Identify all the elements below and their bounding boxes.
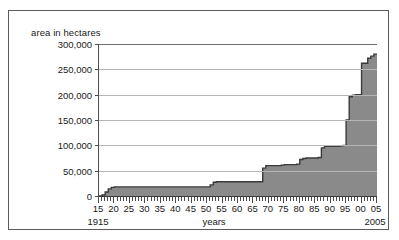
x-axis-label: years <box>202 216 225 227</box>
x-axis-minor-tickmark <box>296 197 297 201</box>
y-axis-tick-label: 200,000 <box>26 89 92 100</box>
x-axis-tick-label: 85 <box>309 203 320 214</box>
plot-area <box>98 44 377 197</box>
x-axis-minor-tickmark <box>339 197 340 201</box>
x-axis-minor-tickmark <box>308 197 309 201</box>
x-axis-minor-tickmark <box>107 197 108 201</box>
x-axis-minor-tickmark <box>181 197 182 201</box>
x-axis-minor-tickmark <box>172 197 173 201</box>
chart-frame: area in hectares 050,000100,000150,00020… <box>8 10 389 230</box>
x-axis-minor-tickmark <box>101 197 102 201</box>
gridline <box>99 120 377 121</box>
x-axis-minor-tickmark <box>240 197 241 201</box>
y-axis-tickmark <box>95 120 99 121</box>
x-axis-start-year: 1915 <box>87 216 108 227</box>
chart-figure: area in hectares 050,000100,000150,00020… <box>0 0 399 240</box>
x-axis-minor-tickmark <box>132 197 133 201</box>
x-axis-end-year: 2005 <box>364 216 385 227</box>
y-axis-tickmark <box>95 44 99 45</box>
x-axis-minor-tickmark <box>342 197 343 201</box>
x-axis-tick-label: 35 <box>154 203 165 214</box>
x-axis-minor-tickmark <box>200 197 201 201</box>
x-axis-minor-tickmark <box>256 197 257 201</box>
gridline <box>99 69 377 70</box>
x-axis-minor-tickmark <box>163 197 164 201</box>
y-axis-tickmark <box>95 69 99 70</box>
gridline <box>99 145 377 146</box>
x-axis-minor-tickmark <box>225 197 226 201</box>
x-axis-minor-tickmark <box>151 197 152 201</box>
x-axis-minor-tickmark <box>166 197 167 201</box>
x-axis-minor-tickmark <box>317 197 318 201</box>
x-axis-minor-tickmark <box>197 197 198 201</box>
x-axis-minor-tickmark <box>126 197 127 201</box>
x-axis-minor-tickmark <box>274 197 275 201</box>
y-axis-tick-label: 100,000 <box>26 140 92 151</box>
x-axis-minor-tickmark <box>311 197 312 201</box>
x-axis-tick-label: 05 <box>371 203 382 214</box>
x-axis-minor-tickmark <box>293 197 294 201</box>
y-axis-tick-label: 50,000 <box>26 165 92 176</box>
x-axis-minor-tickmark <box>265 197 266 201</box>
x-axis-minor-tickmark <box>123 197 124 201</box>
x-axis-tick-label: 40 <box>170 203 181 214</box>
x-axis-minor-tickmark <box>141 197 142 201</box>
x-axis-minor-tickmark <box>117 197 118 201</box>
x-axis-minor-tickmark <box>231 197 232 201</box>
x-axis-tick-label: 25 <box>124 203 135 214</box>
gridline <box>99 44 377 45</box>
x-axis-tick-label: 95 <box>340 203 351 214</box>
y-axis-tickmark <box>95 95 99 96</box>
x-axis-minor-tickmark <box>157 197 158 201</box>
x-axis-minor-tickmark <box>357 197 358 201</box>
y-axis-tick-label: 150,000 <box>26 115 92 126</box>
y-axis-tickmark <box>95 145 99 146</box>
x-axis-minor-tickmark <box>367 197 368 201</box>
x-axis-minor-tickmark <box>243 197 244 201</box>
x-axis-minor-tickmark <box>336 197 337 201</box>
x-axis-minor-tickmark <box>209 197 210 201</box>
x-axis-minor-tickmark <box>323 197 324 201</box>
x-axis-minor-tickmark <box>104 197 105 201</box>
x-axis-minor-tickmark <box>147 197 148 201</box>
x-axis-tick-label: 75 <box>278 203 289 214</box>
x-axis-minor-tickmark <box>370 197 371 201</box>
x-axis-minor-tickmark <box>277 197 278 201</box>
x-axis-minor-tickmark <box>135 197 136 201</box>
x-axis-minor-tickmark <box>178 197 179 201</box>
x-axis-minor-tickmark <box>333 197 334 201</box>
x-axis-minor-tickmark <box>212 197 213 201</box>
x-axis-minor-tickmark <box>120 197 121 201</box>
x-axis-minor-tickmark <box>290 197 291 201</box>
x-axis-minor-tickmark <box>327 197 328 201</box>
x-axis-minor-tickmark <box>373 197 374 201</box>
x-axis-tick-label: 55 <box>216 203 227 214</box>
x-axis-tick-label: 30 <box>139 203 150 214</box>
x-axis-minor-tickmark <box>351 197 352 201</box>
x-axis-minor-tickmark <box>194 197 195 201</box>
x-axis-minor-tickmark <box>184 197 185 201</box>
gridline <box>99 95 377 96</box>
x-axis-minor-tickmark <box>228 197 229 201</box>
x-axis-minor-tickmark <box>234 197 235 201</box>
gridline <box>99 171 377 172</box>
y-axis-tick-label: 250,000 <box>26 64 92 75</box>
x-axis-minor-tickmark <box>188 197 189 201</box>
x-axis-minor-tickmark <box>138 197 139 201</box>
x-axis-tick-label: 15 <box>93 203 104 214</box>
y-axis-tick-label: 300,000 <box>26 39 92 50</box>
x-axis-minor-tickmark <box>169 197 170 201</box>
x-axis-minor-tickmark <box>262 197 263 201</box>
x-axis-minor-tickmark <box>271 197 272 201</box>
y-axis-tickmark <box>95 171 99 172</box>
x-axis-minor-tickmark <box>280 197 281 201</box>
x-axis-minor-tickmark <box>249 197 250 201</box>
x-axis-minor-tickmark <box>215 197 216 201</box>
x-axis-minor-tickmark <box>154 197 155 201</box>
x-axis-minor-tickmark <box>203 197 204 201</box>
x-axis-tick-label: 00 <box>355 203 366 214</box>
x-axis-tick-label: 70 <box>263 203 274 214</box>
x-axis-minor-tickmark <box>302 197 303 201</box>
x-axis-minor-tickmark <box>259 197 260 201</box>
x-axis-minor-tickmark <box>110 197 111 201</box>
